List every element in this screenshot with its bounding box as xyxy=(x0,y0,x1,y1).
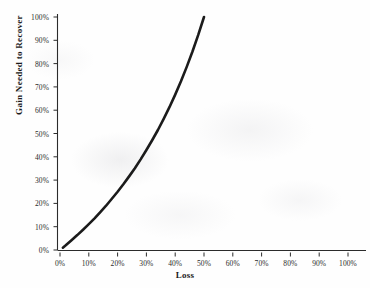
y-tick-label: 50% xyxy=(0,129,49,138)
x-tick-label: 0% xyxy=(55,259,65,268)
x-axis-title: Loss xyxy=(0,270,370,280)
y-axis-title: Gain Needed to Recover xyxy=(14,0,24,150)
x-tick-label: 30% xyxy=(139,259,153,268)
y-tick-label: 100% xyxy=(0,13,49,22)
y-tick-label: 80% xyxy=(0,59,49,68)
y-tick-marks xyxy=(54,17,58,250)
x-tick-label: 10% xyxy=(82,259,96,268)
y-tick-label: 40% xyxy=(0,152,49,161)
x-tick-label: 50% xyxy=(197,259,211,268)
x-tick-label: 20% xyxy=(111,259,125,268)
plot-canvas xyxy=(0,0,370,288)
data-series-group xyxy=(63,17,204,248)
x-tick-marks xyxy=(60,253,348,257)
y-tick-label: 70% xyxy=(0,82,49,91)
data-curve-0 xyxy=(63,17,204,248)
x-tick-label: 90% xyxy=(312,259,326,268)
x-tick-label: 100% xyxy=(339,259,357,268)
x-tick-label: 40% xyxy=(168,259,182,268)
y-tick-label: 30% xyxy=(0,176,49,185)
y-tick-label: 90% xyxy=(0,36,49,45)
y-tick-label: 60% xyxy=(0,106,49,115)
x-tick-label: 60% xyxy=(226,259,240,268)
y-tick-label: 0% xyxy=(0,246,49,255)
axes-group xyxy=(58,14,367,251)
y-tick-label: 10% xyxy=(0,222,49,231)
chart-container: 0%10%20%30%40%50%60%70%80%90%100% 0%10%2… xyxy=(0,0,370,288)
y-tick-label: 20% xyxy=(0,199,49,208)
x-tick-label: 70% xyxy=(255,259,269,268)
x-tick-label: 80% xyxy=(283,259,297,268)
